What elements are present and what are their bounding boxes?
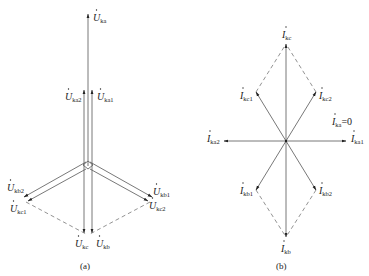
- svg-text:Uka1: Uka1: [97, 91, 114, 103]
- dashed-left: [26, 202, 86, 234]
- vector-i-kc2: [286, 92, 316, 141]
- vector-i-kb2: [286, 141, 316, 190]
- vector-i-kb1: [256, 141, 286, 190]
- caption-b: (b): [276, 261, 287, 271]
- dashed-right: [90, 202, 150, 234]
- svg-text:Ukc2: Ukc2: [149, 200, 166, 212]
- center-point: [285, 140, 287, 142]
- phasor-diagram: Uka Uka2 Uka1 Ukb2 Ukc1 Ukb1 Ukc2 Ukc: [0, 0, 369, 276]
- label-i-kb2: Ikb2: [318, 182, 332, 197]
- label-u-kb1: Ukb1: [153, 183, 170, 198]
- svg-text:Uka: Uka: [93, 12, 106, 24]
- svg-text:Ikb2: Ikb2: [318, 185, 332, 197]
- label-u-kc2: Ukc2: [149, 197, 166, 212]
- vector-u-kc2: [90, 169, 148, 201]
- svg-text:Ikb: Ikb: [280, 243, 291, 255]
- caption-a: (a): [80, 261, 90, 271]
- svg-text:Ikc: Ikc: [281, 29, 292, 41]
- svg-text:Ika2: Ika2: [206, 133, 220, 145]
- svg-text:Ukb1: Ukb1: [153, 186, 170, 198]
- label-u-ka: Uka: [93, 9, 106, 24]
- label-u-kb2: Ukb2: [7, 179, 24, 194]
- svg-text:Ika=0: Ika=0: [331, 116, 352, 128]
- vector-u-kb1: [90, 162, 152, 197]
- label-i-kb: Ikb: [280, 240, 291, 255]
- svg-text:Ikc1: Ikc1: [239, 90, 253, 102]
- vector-u-kb2: [24, 162, 86, 197]
- svg-text:Ukc: Ukc: [75, 238, 88, 250]
- figure-b-current-phasors: Ikc Ikc1 Ikc2 Ika=0 Ika1 Ika2 Ikb1 Ikb2: [206, 26, 364, 271]
- dashed-upper-left: [256, 44, 286, 92]
- label-i-kc1: Ikc1: [239, 87, 253, 102]
- figure-a-voltage-phasors: Uka Uka2 Uka1 Ukb2 Ukc1 Ukb1 Ukc2 Ukc: [7, 9, 170, 271]
- label-i-ka1: Ika1: [350, 130, 364, 145]
- svg-text:Ikc2: Ikc2: [318, 90, 332, 102]
- vector-u-kc1: [28, 169, 86, 201]
- vector-i-kc1: [256, 92, 286, 141]
- svg-text:Ika1: Ika1: [350, 133, 364, 145]
- label-u-kb: Ukb: [96, 235, 110, 250]
- label-u-ka1: Uka1: [97, 88, 114, 103]
- label-i-kc2: Ikc2: [318, 87, 332, 102]
- svg-text:Uka2: Uka2: [65, 91, 82, 103]
- label-u-kc1: Ukc1: [10, 200, 27, 215]
- svg-text:Ukc1: Ukc1: [10, 203, 27, 215]
- dashed-upper-right: [286, 44, 316, 92]
- dashed-lower-right: [286, 190, 316, 237]
- svg-text:Ikb1: Ikb1: [239, 185, 253, 197]
- label-i-kb1: Ikb1: [239, 182, 253, 197]
- label-i-ka2: Ika2: [206, 130, 220, 145]
- label-u-kc: Ukc: [75, 235, 88, 250]
- label-i-ka-zero: Ika=0: [331, 113, 352, 128]
- svg-text:Ukb: Ukb: [96, 238, 110, 250]
- svg-text:Ukb2: Ukb2: [7, 182, 24, 194]
- label-i-kc: Ikc: [281, 26, 292, 41]
- dashed-lower-left: [256, 190, 286, 237]
- label-u-ka2: Uka2: [65, 88, 82, 103]
